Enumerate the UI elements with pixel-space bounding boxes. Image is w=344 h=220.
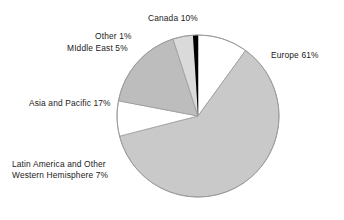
pie-chart-graphic bbox=[0, 0, 344, 220]
slice-label-latin-america-line1: Latin America and Other bbox=[12, 159, 152, 170]
slice-label-asia-and-pacific: Asia and Pacific 17% bbox=[29, 98, 111, 109]
slice-label-other: Other 1% bbox=[95, 31, 132, 42]
slice-label-europe: Europe 61% bbox=[271, 50, 319, 61]
slice-label-latin-america-line2: Western Hemisphere 7% bbox=[12, 170, 152, 181]
slice-label-middle-east: MIddle East 5% bbox=[67, 43, 128, 54]
slice-label-latin-america: Latin America and Other Western Hemisphe… bbox=[12, 159, 152, 180]
slice-label-canada: Canada 10% bbox=[148, 13, 198, 24]
pie-chart-figure: Canada 10% Other 1% MIddle East 5% Europ… bbox=[0, 0, 344, 220]
